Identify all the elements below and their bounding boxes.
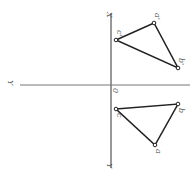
lower-triangle bbox=[116, 104, 178, 145]
axis-label-x: X bbox=[105, 11, 114, 18]
point-b-prime bbox=[176, 66, 180, 70]
point-a-prime bbox=[152, 21, 156, 25]
point-b bbox=[176, 102, 180, 106]
label-a: a bbox=[154, 149, 163, 154]
axis-label-y-bottom: Y bbox=[105, 163, 114, 169]
point-c bbox=[114, 107, 118, 111]
label-a-prime: a' bbox=[153, 13, 162, 20]
label-b-prime: b' bbox=[177, 58, 186, 65]
upper-triangle bbox=[116, 23, 178, 68]
projection-diagram: X Y Y 0 c' a' b' c b a bbox=[0, 0, 190, 177]
label-c: c bbox=[115, 113, 124, 118]
origin-label: 0 bbox=[111, 88, 120, 93]
label-b: b bbox=[177, 108, 186, 113]
point-a bbox=[153, 143, 157, 147]
point-c-prime bbox=[114, 38, 118, 42]
axis-label-y-left: Y bbox=[6, 80, 15, 86]
label-c-prime: c' bbox=[115, 30, 124, 37]
